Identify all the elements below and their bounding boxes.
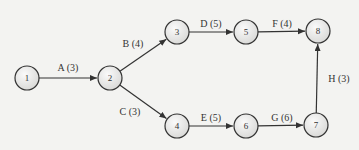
svg-text:2: 2 [108, 73, 113, 83]
svg-text:4: 4 [175, 121, 180, 131]
node-5: 5 [234, 20, 258, 44]
edge-7-8 [316, 44, 317, 113]
edge-label: E (5) [201, 112, 221, 124]
node-4: 4 [165, 114, 189, 138]
node-7: 7 [304, 113, 328, 137]
edge-5-8 [258, 31, 305, 32]
edge-label: D (5) [200, 18, 221, 30]
svg-text:8: 8 [316, 26, 321, 36]
edge-label: A (3) [58, 62, 79, 74]
svg-text:1: 1 [25, 73, 30, 83]
network-diagram: A (3)B (4)C (3)D (5)F (4)E (5)G (6)H (3)… [0, 0, 359, 150]
edge-label: F (4) [272, 18, 292, 30]
svg-text:7: 7 [314, 120, 319, 130]
edge-6-7 [258, 125, 303, 126]
diagram-svg: A (3)B (4)C (3)D (5)F (4)E (5)G (6)H (3)… [0, 0, 359, 150]
edge-label: H (3) [328, 73, 349, 85]
node-6: 6 [234, 114, 258, 138]
svg-text:5: 5 [244, 27, 249, 37]
node-2: 2 [98, 66, 122, 90]
edge-label: C (3) [120, 106, 141, 118]
edge-label: G (6) [271, 112, 292, 124]
edge-label: B (4) [123, 38, 144, 50]
node-3: 3 [165, 20, 189, 44]
svg-text:3: 3 [175, 27, 180, 37]
svg-text:6: 6 [244, 121, 249, 131]
node-1: 1 [15, 66, 39, 90]
node-8: 8 [306, 19, 330, 43]
